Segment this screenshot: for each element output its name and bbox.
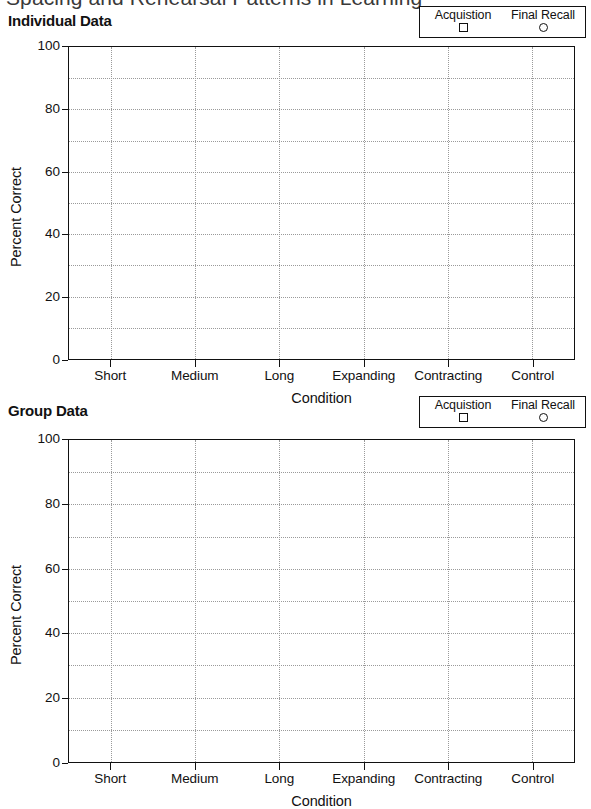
- gridline-vertical: [195, 440, 196, 762]
- gridline-vertical: [364, 440, 365, 762]
- gridline-horizontal: [69, 504, 574, 505]
- x-tick-mark: [448, 360, 449, 367]
- y-tick-label: 0: [52, 755, 60, 770]
- figure-group-data: Group Data Acquistion Final Recall Perce…: [0, 402, 591, 805]
- y-tick-label: 20: [45, 690, 60, 705]
- x-tick-mark: [448, 763, 449, 770]
- x-tick-mark: [195, 360, 196, 367]
- x-tick-mark: [364, 763, 365, 770]
- gridline-horizontal: [69, 109, 574, 110]
- legend-label-final-recall: Final Recall: [504, 8, 582, 22]
- y-tick-label: 60: [45, 164, 60, 179]
- gridline-horizontal: [69, 730, 574, 731]
- y-tick-label: 0: [52, 352, 60, 367]
- square-marker-icon: [459, 413, 468, 422]
- x-tick-mark: [110, 763, 111, 770]
- legend-label-acquistion: Acquistion: [424, 8, 502, 22]
- legend-group: Acquistion Final Recall: [419, 396, 586, 428]
- legend-entry-acquistion: Acquistion: [424, 8, 502, 32]
- x-tick-mark: [364, 360, 365, 367]
- x-tick-label: Control: [473, 368, 591, 383]
- y-axis-group: 020406080100: [0, 439, 68, 763]
- gridline-horizontal: [69, 472, 574, 473]
- gridline-horizontal: [69, 203, 574, 204]
- circle-marker-icon: [539, 413, 548, 422]
- gridline-vertical: [448, 47, 449, 359]
- page-title: Spacing and Rehearsal Patterns in Learni…: [6, 0, 422, 10]
- gridline-horizontal: [69, 328, 574, 329]
- gridline-vertical: [195, 47, 196, 359]
- figure-individual-data: Individual Data Acquistion Final Recall …: [0, 12, 591, 402]
- gridline-horizontal: [69, 601, 574, 602]
- y-tick-label: 100: [37, 431, 60, 446]
- x-tick-mark: [110, 360, 111, 367]
- legend-entry-acquistion: Acquistion: [424, 398, 502, 422]
- plot-individual-data: Percent Correct 020406080100 ShortMedium…: [0, 36, 591, 402]
- gridline-horizontal: [69, 78, 574, 79]
- gridline-vertical: [532, 47, 533, 359]
- legend-entry-final-recall: Final Recall: [504, 8, 582, 32]
- gridline-vertical: [279, 47, 280, 359]
- legend-individual: Acquistion Final Recall: [419, 6, 586, 38]
- gridline-horizontal: [69, 141, 574, 142]
- y-tick-label: 80: [45, 101, 60, 116]
- gridline-vertical: [111, 440, 112, 762]
- x-tick-mark: [279, 360, 280, 367]
- gridline-vertical: [448, 440, 449, 762]
- x-tick-label: Control: [473, 771, 591, 786]
- legend-label-final-recall: Final Recall: [504, 398, 582, 412]
- legend-entry-final-recall: Final Recall: [504, 398, 582, 422]
- square-marker-icon: [459, 23, 468, 32]
- gridline-vertical: [532, 440, 533, 762]
- y-tick-label: 80: [45, 496, 60, 511]
- gridline-horizontal: [69, 297, 574, 298]
- plot-group-data: Percent Correct 020406080100 ShortMedium…: [0, 429, 591, 805]
- panel-title-group: Group Data: [8, 402, 88, 419]
- gridline-horizontal: [69, 172, 574, 173]
- x-tick-mark: [533, 763, 534, 770]
- y-tick-label: 40: [45, 625, 60, 640]
- y-tick-label: 20: [45, 289, 60, 304]
- gridline-horizontal: [69, 665, 574, 666]
- legend-label-acquistion: Acquistion: [424, 398, 502, 412]
- x-tick-mark: [279, 763, 280, 770]
- gridline-horizontal: [69, 698, 574, 699]
- gridline-horizontal: [69, 265, 574, 266]
- plot-area-individual: [68, 46, 575, 360]
- plot-area-group: [68, 439, 575, 763]
- gridline-vertical: [364, 47, 365, 359]
- gridline-horizontal: [69, 234, 574, 235]
- x-tick-mark: [533, 360, 534, 367]
- gridline-horizontal: [69, 537, 574, 538]
- gridline-vertical: [111, 47, 112, 359]
- y-axis-individual: 020406080100: [0, 46, 68, 360]
- gridline-horizontal: [69, 569, 574, 570]
- x-tick-mark: [195, 763, 196, 770]
- y-tick-label: 40: [45, 226, 60, 241]
- gridline-horizontal: [69, 633, 574, 634]
- panel-title-individual: Individual Data: [8, 12, 112, 29]
- y-tick-label: 100: [37, 38, 60, 53]
- y-tick-label: 60: [45, 561, 60, 576]
- circle-marker-icon: [539, 23, 548, 32]
- gridline-vertical: [279, 440, 280, 762]
- x-axis-label-group: Condition: [68, 793, 575, 809]
